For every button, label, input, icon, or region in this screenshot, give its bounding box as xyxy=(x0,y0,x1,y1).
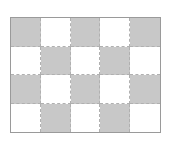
grid-cell-r3-c2 xyxy=(71,104,101,133)
grid-cell-r2-c2 xyxy=(71,75,101,104)
grid-cell-r1-c4 xyxy=(130,47,160,76)
grid-cell-r3-c4 xyxy=(130,104,160,133)
grid-cell-r1-c0 xyxy=(11,47,41,76)
grid-cell-r0-c2 xyxy=(71,18,101,47)
grid-cell-r1-c3 xyxy=(100,47,130,76)
grid-cell-r2-c1 xyxy=(41,75,71,104)
grid-cell-r0-c4 xyxy=(130,18,160,47)
checkerboard-grid xyxy=(10,17,161,133)
grid-cell-r2-c0 xyxy=(11,75,41,104)
grid-cell-r0-c3 xyxy=(100,18,130,47)
grid-cell-r3-c3 xyxy=(100,104,130,133)
grid-cell-r0-c1 xyxy=(41,18,71,47)
grid-cell-r3-c1 xyxy=(41,104,71,133)
grid-cell-r2-c3 xyxy=(100,75,130,104)
grid-cell-r2-c4 xyxy=(130,75,160,104)
grid-cell-r3-c0 xyxy=(11,104,41,133)
grid-cell-r1-c2 xyxy=(71,47,101,76)
grid-cell-r0-c0 xyxy=(11,18,41,47)
grid-cell-r1-c1 xyxy=(41,47,71,76)
